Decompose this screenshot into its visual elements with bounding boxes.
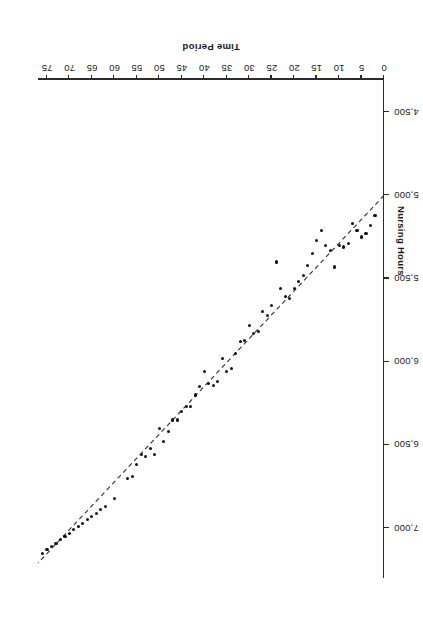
data-point [81, 522, 84, 525]
data-point [373, 214, 376, 217]
data-point [113, 497, 116, 500]
data-point [216, 380, 219, 383]
x-tick-30 [248, 75, 249, 80]
y-axis-line [383, 79, 385, 578]
data-point [302, 274, 305, 277]
data-point [329, 249, 332, 252]
data-point [293, 287, 296, 290]
data-point [185, 405, 188, 408]
data-point [86, 518, 89, 521]
y-tick-label-4,500: 4,500 [394, 107, 423, 118]
data-point [288, 297, 291, 300]
x-tick-60 [113, 75, 114, 80]
data-point [311, 252, 314, 255]
y-tick-label-6,000: 6,000 [394, 356, 423, 367]
data-point [99, 508, 102, 511]
x-tick-65 [91, 75, 92, 80]
x-tick-45 [181, 75, 182, 80]
data-point [315, 239, 318, 242]
data-point [68, 532, 71, 535]
data-point [257, 330, 260, 333]
y-tick-5,500 [384, 277, 389, 278]
data-point [140, 453, 143, 456]
data-point [356, 229, 359, 232]
data-point [320, 229, 323, 232]
data-point [306, 264, 309, 267]
data-point [95, 512, 98, 515]
data-point [243, 339, 246, 342]
x-tick-5 [360, 75, 361, 80]
data-point [180, 410, 183, 413]
data-point [221, 357, 224, 360]
data-point [248, 324, 251, 327]
data-point [153, 453, 156, 456]
data-point [266, 314, 269, 317]
data-point [126, 477, 129, 480]
data-point [342, 245, 345, 248]
x-tick-15 [315, 75, 316, 80]
x-tick-55 [136, 75, 137, 80]
data-point [239, 340, 242, 343]
data-point [131, 475, 134, 478]
x-tick-70 [68, 75, 69, 80]
data-point [45, 548, 48, 551]
x-tick-50 [158, 75, 159, 80]
data-point [333, 265, 336, 268]
data-point [284, 295, 287, 298]
y-tick-label-5,000: 5,000 [394, 190, 423, 201]
data-point [279, 287, 282, 290]
y-tick-6,000 [384, 361, 389, 362]
data-point [207, 382, 210, 385]
y-tick-label-6,500: 6,500 [394, 439, 423, 450]
data-point [171, 418, 174, 421]
data-point [167, 430, 170, 433]
scatter-plot-figure: 051015202530354045505560657075 4,5005,00… [0, 0, 423, 631]
data-point [234, 352, 237, 355]
data-point [189, 405, 192, 408]
y-axis-title: Nursing Hours [396, 206, 407, 276]
data-point [338, 244, 341, 247]
data-point [212, 384, 215, 387]
x-tick-40 [203, 75, 204, 80]
y-tick-label-7,000: 7,000 [394, 523, 423, 534]
y-tick-5,000 [384, 194, 389, 195]
data-point [324, 244, 327, 247]
x-tick-25 [270, 75, 271, 80]
data-point [351, 222, 354, 225]
data-point [225, 370, 228, 373]
y-tick-7,000 [384, 527, 389, 528]
data-point [144, 455, 147, 458]
data-point [347, 242, 350, 245]
data-point [59, 538, 62, 541]
data-point [297, 280, 300, 283]
data-point [54, 542, 57, 545]
data-point [90, 515, 93, 518]
data-point [50, 545, 53, 548]
data-point [149, 447, 152, 450]
data-point [369, 224, 372, 227]
x-tick-20 [293, 75, 294, 80]
rotated-plot-container: 051015202530354045505560657075 4,5005,00… [0, 0, 423, 631]
x-tick-label-75: 75 [27, 63, 67, 74]
data-point [198, 385, 201, 388]
data-point [176, 418, 179, 421]
data-point [162, 440, 165, 443]
data-point [261, 310, 264, 313]
x-tick-0 [383, 75, 384, 80]
data-point [194, 394, 197, 397]
data-point [135, 463, 138, 466]
y-tick-4,500 [384, 111, 389, 112]
y-tick-6,500 [384, 444, 389, 445]
data-point [158, 427, 161, 430]
data-point [72, 528, 75, 531]
regression-line [38, 79, 384, 578]
data-point [77, 525, 80, 528]
x-tick-35 [226, 75, 227, 80]
data-point [360, 235, 363, 238]
x-axis-title: Time Period [38, 42, 384, 53]
data-point [104, 505, 107, 508]
data-point [275, 260, 278, 263]
x-tick-10 [338, 75, 339, 80]
data-point [270, 304, 273, 307]
data-point [63, 535, 66, 538]
